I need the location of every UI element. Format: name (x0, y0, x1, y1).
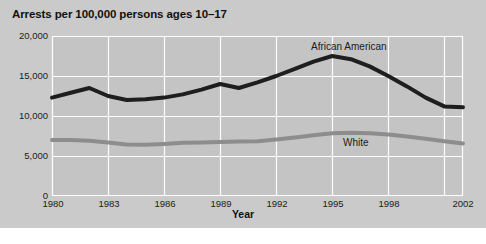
plot-svg (0, 0, 486, 228)
series-annotation-white: White (343, 137, 369, 148)
ytick-label-15000: 15,000 (4, 70, 48, 81)
ytick-label-5000: 5,000 (4, 150, 48, 161)
chart-canvas: Arrests per 100,000 persons ages 10–17 (0, 0, 486, 228)
series-annotation-african-american: African American (311, 41, 387, 52)
ytick-label-20000: 20,000 (4, 30, 48, 41)
chart-figure: Arrests per 100,000 persons ages 10–17 (0, 0, 486, 244)
ytick-label-10000: 10,000 (4, 110, 48, 121)
figure-footer-strip (0, 228, 486, 244)
plot-area: 20,000 15,000 10,000 5,000 0 1980 1983 1… (0, 0, 486, 228)
x-axis-title: Year (0, 208, 486, 220)
